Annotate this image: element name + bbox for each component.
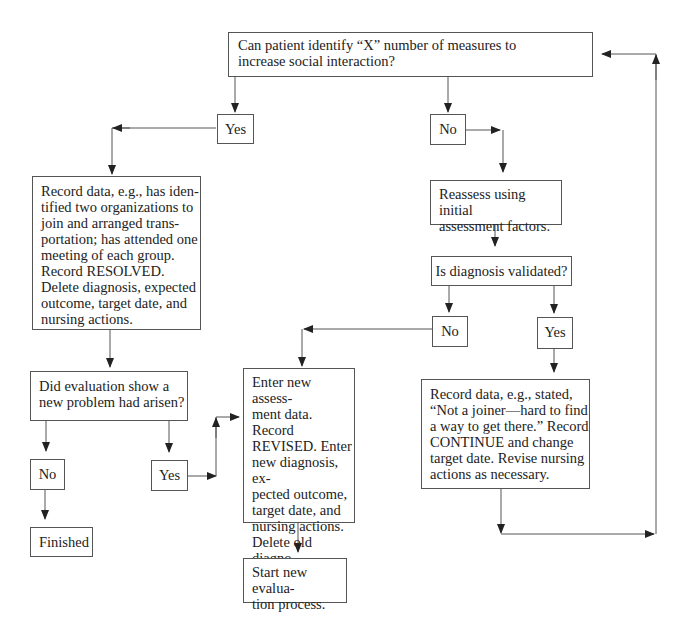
text-line: outcome, target date, and <box>41 295 200 311</box>
text-line: Record data, e.g., stated, <box>430 386 589 402</box>
text-line: nursing actions. <box>41 311 200 327</box>
text-line: CONTINUE and change <box>430 434 589 450</box>
finished-label: Finished <box>39 534 89 550</box>
no-new-problem-node: No <box>30 459 65 490</box>
text-line: new problem had arisen? <box>39 394 187 410</box>
text-line: Did evaluation show a <box>39 378 187 394</box>
yes-new-problem-node: Yes <box>151 460 188 491</box>
text-line: a way to get there.” Record <box>430 418 589 434</box>
yes-label: Yes <box>544 324 565 340</box>
yes-validated-node: Yes <box>537 317 573 349</box>
text-line: target date. Revise nursing <box>430 450 589 466</box>
text-line: target date, and <box>252 502 354 518</box>
new-problem-question: Did evaluation show a new problem had ar… <box>30 371 188 421</box>
record-resolved-node: Record data, e.g., has iden- tified two … <box>32 176 201 330</box>
no-validated-node: No <box>432 316 468 347</box>
text-line: Delete diagnosis, expected <box>41 279 200 295</box>
text-line: assessment factors. <box>439 218 561 234</box>
text-line: portation; has attended one <box>41 231 200 247</box>
no-top-node: No <box>430 114 466 145</box>
enter-new-assessment-node: Enter new assess- ment data. Record REVI… <box>243 368 355 523</box>
yes-label: Yes <box>225 121 246 137</box>
text-line: “Not a joiner—hard to find <box>430 402 589 418</box>
text-line: Reassess using initial <box>439 186 561 218</box>
text-line: join and arranged trans- <box>41 215 200 231</box>
text-line: tified two organizations to <box>41 199 200 215</box>
record-continue-node: Record data, e.g., stated, “Not a joiner… <box>421 379 590 489</box>
text-line: Record data, e.g., has iden- <box>41 183 200 199</box>
text-line: Record RESOLVED. <box>41 263 200 279</box>
diagnosis-validated-question: Is diagnosis validated? <box>431 256 572 286</box>
no-label: No <box>441 323 459 339</box>
question-line: Can patient identify “X” number of measu… <box>238 37 592 53</box>
question-identify-measures: Can patient identify “X” number of measu… <box>228 32 593 77</box>
yes-label: Yes <box>159 467 180 483</box>
text-line: tion process. <box>252 596 346 612</box>
no-label: No <box>439 121 457 137</box>
text-line: REVISED. Enter <box>252 438 354 454</box>
no-label: No <box>39 466 57 482</box>
question-label: Is diagnosis validated? <box>435 263 567 279</box>
start-new-evaluation-node: Start new evalua- tion process. <box>243 558 347 603</box>
text-line: Start new evalua- <box>252 564 346 596</box>
text-line: ment data. Record <box>252 406 354 438</box>
question-line: increase social interaction? <box>238 53 592 69</box>
finished-node: Finished <box>30 527 93 557</box>
text-line: new diagnosis, ex- <box>252 454 354 486</box>
text-line: meeting of each group. <box>41 247 200 263</box>
text-line: Enter new assess- <box>252 374 354 406</box>
reassess-node: Reassess using initial assessment factor… <box>430 180 562 225</box>
text-line: pected outcome, <box>252 486 354 502</box>
yes-top-node: Yes <box>217 114 254 144</box>
text-line: nursing actions. <box>252 518 354 534</box>
text-line: actions as necessary. <box>430 466 589 482</box>
